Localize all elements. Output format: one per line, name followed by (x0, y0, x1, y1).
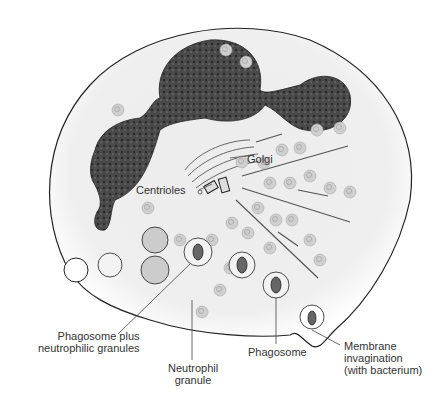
label-centrioles: Centrioles (136, 184, 186, 196)
label-neutrophil-granule: Neutrophil granule (168, 362, 218, 386)
small-vesicle (64, 258, 88, 282)
label-golgi: Golgi (247, 153, 273, 165)
label-membrane-invagination: Membrane invagination (with bacterium) (344, 340, 422, 376)
label-phagosome-plus-granules: Phagosome plus neutrophilic granules (38, 330, 140, 354)
label-phagosome: Phagosome (248, 346, 307, 358)
